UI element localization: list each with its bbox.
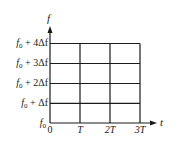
time-frequency-diagram: f t f0 + 4Δf f0 + 3Δf f0 + 2Δf f0 + Δf f… (0, 0, 176, 146)
y-tick-label-1: f0 + Δf (21, 98, 48, 108)
y-tick-label-3: f0 + 3Δf (16, 58, 48, 68)
y-axis-label: f (47, 13, 50, 24)
y-tick-label-0: f0 (40, 118, 46, 128)
x-axis-label: t (160, 117, 163, 128)
x-axis-arrow-icon (150, 121, 157, 126)
x-tick-label-3: 3T (135, 125, 146, 135)
x-tick-label-1: T (77, 125, 83, 135)
y-tick-label-2: f0 + 2Δf (16, 78, 48, 88)
y-tick-label-4: f0 + 4Δf (16, 38, 48, 48)
grid-canvas (0, 0, 176, 146)
x-tick-label-2: 2T (105, 125, 116, 135)
x-tick-label-0: 0 (48, 125, 53, 135)
y-axis-arrow-icon (48, 26, 53, 33)
